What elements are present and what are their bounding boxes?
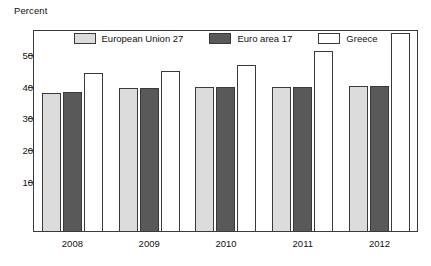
bar-group-2008 [34, 30, 111, 232]
bar-2012-greece [391, 33, 410, 232]
y-axis-tick-label: 50 [11, 50, 33, 61]
bar-group-2012 [341, 30, 418, 232]
bar-2011-european-union-27 [272, 87, 291, 232]
x-axis-label-2012: 2012 [369, 238, 390, 249]
bar-group-2010 [188, 30, 265, 232]
bar-2012-euro-area-17 [370, 86, 389, 232]
bar-2009-euro-area-17 [140, 88, 159, 232]
x-axis-label-2008: 2008 [62, 238, 83, 249]
x-axis-label-2010: 2010 [215, 238, 236, 249]
y-axis-tick-label: 10 [11, 176, 33, 187]
bar-2009-european-union-27 [119, 88, 138, 232]
y-axis-tick-label: 20 [11, 144, 33, 155]
x-axis-label-2009: 2009 [139, 238, 160, 249]
y-axis-tick-label: 30 [11, 113, 33, 124]
y-axis-unit-label: Percent [14, 5, 47, 16]
bar-2012-european-union-27 [349, 86, 368, 232]
bar-2008-euro-area-17 [63, 92, 82, 232]
bar-2008-greece [84, 73, 103, 232]
bar-2009-greece [161, 71, 180, 232]
bar-group-2011 [264, 30, 341, 232]
x-axis-label-2011: 2011 [293, 238, 313, 249]
bar-group-2009 [111, 30, 188, 232]
bars-area [34, 30, 418, 232]
y-axis-tick-label: 40 [11, 81, 33, 92]
bar-2010-euro-area-17 [216, 87, 235, 232]
bar-2010-greece [237, 65, 256, 232]
bar-2011-euro-area-17 [293, 87, 312, 232]
bar-2010-european-union-27 [195, 87, 214, 232]
bar-2008-european-union-27 [42, 93, 61, 232]
bar-chart: Percent 1020304050 European Union 27 Eur… [0, 0, 431, 266]
bar-2011-greece [314, 51, 333, 232]
